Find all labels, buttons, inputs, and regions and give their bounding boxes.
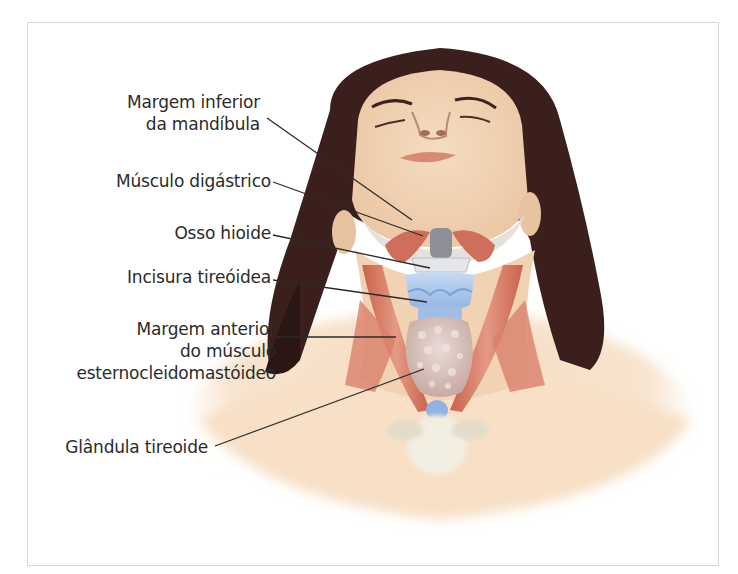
label-margem-anterior-ecm: Margem anterior do músculo esternocleido… [76,318,276,384]
neck-anatomy-illustration [0,0,738,574]
label-incisura-tireoidea: Incisura tireóidea [127,266,271,288]
label-osso-hioide: Osso hioide [174,222,271,244]
label-glandula-tireoide: Glândula tireoide [65,436,208,458]
label-musculo-digastrico: Músculo digástrico [116,170,271,192]
label-margem-inferior-mandibula: Margem inferior da mandíbula [127,91,260,135]
